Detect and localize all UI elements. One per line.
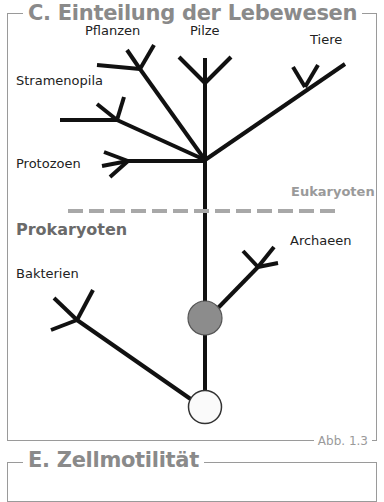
- section-title-e: E. Zellmotilität: [23, 448, 204, 472]
- label-prokaryoten: Prokaryoten: [16, 222, 127, 238]
- label-pilze: Pilze: [190, 23, 220, 39]
- label-pflanzen: Pflanzen: [85, 23, 140, 39]
- branch-tiere: [205, 64, 345, 160]
- label-stramenopila: Stramenopila: [16, 73, 103, 89]
- label-archaeen: Archaeen: [290, 233, 352, 249]
- branch-archaeen: [218, 267, 258, 308]
- label-eukaryoten: Eukaryoten: [291, 184, 375, 200]
- label-tiere: Tiere: [310, 32, 342, 48]
- label-bakterien: Bakterien: [16, 266, 79, 282]
- root-node: [189, 391, 222, 424]
- prokaryote-ancestor-node: [188, 301, 222, 335]
- branch-bakterien: [77, 320, 192, 400]
- label-protozoen: Protozoen: [16, 156, 81, 172]
